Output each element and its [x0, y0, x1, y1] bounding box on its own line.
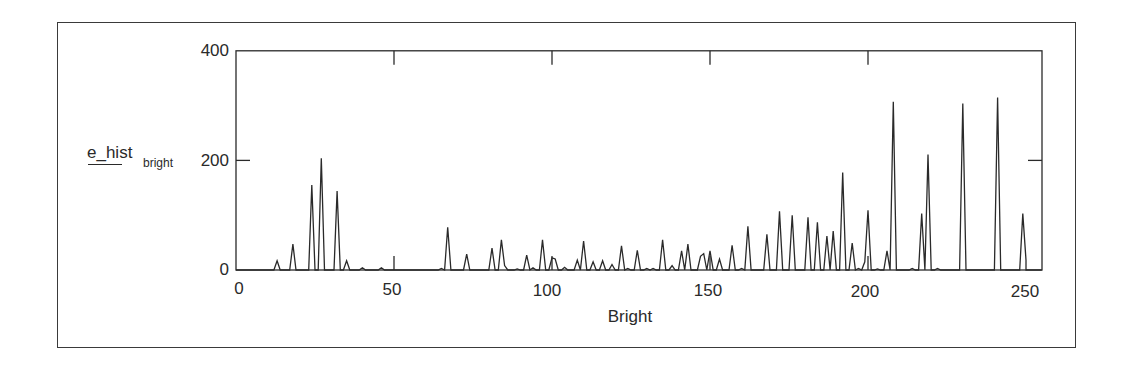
x-axis-label: Bright — [580, 307, 680, 327]
x-tick-label-150: 150 — [678, 281, 738, 301]
x-tick-label-250: 250 — [995, 282, 1055, 302]
y-axis-label-subscript: bright — [143, 156, 173, 170]
x-tick-label-0: 0 — [209, 279, 269, 299]
x-tick-label-200: 200 — [835, 282, 895, 302]
axes-box — [236, 51, 1042, 270]
y-tick-label-200: 200 — [179, 151, 229, 171]
histogram-plot — [0, 0, 1130, 377]
y-tick-label-400: 400 — [179, 41, 229, 61]
y-axis-label-underline — [88, 164, 122, 165]
x-tick-label-50: 50 — [362, 280, 422, 300]
y-tick-label-0: 0 — [179, 260, 229, 280]
axis-ticks — [236, 51, 1042, 270]
histogram-line — [236, 97, 1042, 270]
y-axis-label: e_hist — [87, 143, 132, 163]
x-tick-label-100: 100 — [517, 281, 577, 301]
